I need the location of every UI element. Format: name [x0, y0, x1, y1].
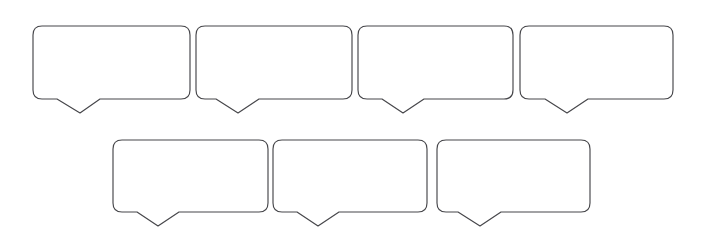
speech-bubble[interactable]: [437, 140, 590, 226]
speech-bubble-diagram: [0, 0, 703, 244]
speech-bubble[interactable]: [358, 26, 513, 113]
bubble-layer: [33, 26, 673, 226]
speech-bubble[interactable]: [520, 26, 673, 113]
diagram-canvas: [0, 0, 703, 244]
speech-bubble[interactable]: [273, 140, 427, 226]
speech-bubble[interactable]: [196, 26, 352, 113]
speech-bubble[interactable]: [33, 26, 190, 113]
speech-bubble[interactable]: [113, 140, 268, 226]
